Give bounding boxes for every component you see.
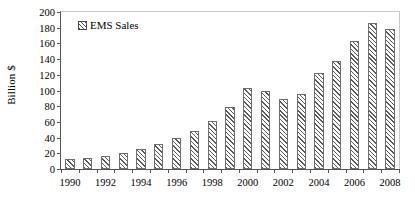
x-axis-tick [221, 169, 222, 173]
y-axis-tick [57, 12, 61, 13]
bar [154, 144, 163, 169]
y-axis-tick [57, 75, 61, 76]
x-axis-tick-label: 1990 [59, 177, 80, 188]
chart-legend: EMS Sales [78, 19, 139, 31]
y-axis-tick [57, 91, 61, 92]
bar [136, 149, 145, 169]
y-axis-tick [57, 122, 61, 123]
y-axis-tick-label: 100 [39, 85, 55, 96]
x-axis-tick [257, 169, 258, 173]
x-axis-tick-label: 2000 [237, 177, 258, 188]
x-axis-tick [203, 169, 204, 173]
bar [243, 88, 252, 169]
x-axis-tick [292, 169, 293, 173]
x-axis-tick [310, 169, 311, 173]
y-axis-tick-label: 120 [39, 69, 55, 80]
y-axis-tick-label: 80 [45, 101, 56, 112]
x-axis-tick-label: 1992 [95, 177, 116, 188]
bar [225, 107, 234, 169]
bar [332, 61, 341, 169]
x-axis-tick [61, 169, 62, 173]
x-axis-tick-label: 1996 [166, 177, 187, 188]
y-axis-title: Billion $ [5, 45, 17, 125]
bar [101, 156, 110, 169]
bar [208, 121, 217, 169]
legend-label-ems-sales: EMS Sales [90, 19, 139, 31]
y-axis-tick-label: 160 [39, 38, 55, 49]
y-axis-tick [57, 59, 61, 60]
x-axis-tick [346, 169, 347, 173]
y-axis-tick-label: 60 [45, 116, 56, 127]
bar [385, 29, 394, 169]
bar [190, 131, 199, 169]
x-axis-tick [79, 169, 80, 173]
legend-swatch-icon [78, 21, 87, 30]
y-axis-tick-label: 200 [39, 7, 55, 18]
x-axis-tick-label: 2008 [380, 177, 401, 188]
x-axis-tick [363, 169, 364, 173]
x-axis-tick-label: 1998 [202, 177, 223, 188]
y-axis-tick [57, 138, 61, 139]
ems-sales-bar-chart: Billion $ 020406080100120140160180200199… [0, 0, 415, 205]
y-axis-tick-label: 40 [45, 132, 56, 143]
x-axis-tick [274, 169, 275, 173]
x-axis-tick-label: 2002 [273, 177, 294, 188]
x-axis-tick [399, 169, 400, 173]
bar [172, 138, 181, 169]
x-axis-tick [168, 169, 169, 173]
y-axis-tick-label: 140 [39, 54, 55, 65]
x-axis-tick-label: 2004 [308, 177, 329, 188]
x-axis-tick [132, 169, 133, 173]
y-axis-tick-label: 0 [50, 164, 55, 175]
x-axis-tick [97, 169, 98, 173]
x-axis-tick [114, 169, 115, 173]
y-axis-tick [57, 153, 61, 154]
bar [368, 23, 377, 169]
bar [65, 159, 74, 169]
x-axis-tick-label: 2006 [344, 177, 365, 188]
y-axis-tick [57, 106, 61, 107]
y-axis-tick-label: 180 [39, 22, 55, 33]
x-axis-tick [328, 169, 329, 173]
y-axis-tick-label: 20 [45, 148, 56, 159]
y-axis-tick [57, 43, 61, 44]
bar [119, 153, 128, 169]
bar [279, 99, 288, 169]
x-axis-tick [150, 169, 151, 173]
x-axis-tick [186, 169, 187, 173]
bar [83, 158, 92, 169]
x-axis-tick [381, 169, 382, 173]
bar [350, 41, 359, 169]
bar [297, 94, 306, 169]
x-axis-tick-label: 1994 [131, 177, 152, 188]
y-axis-tick [57, 28, 61, 29]
plot-area: 0204060801001201401601802001990199219941… [60, 11, 400, 170]
x-axis-tick [239, 169, 240, 173]
bar [314, 73, 323, 169]
bar [261, 91, 270, 170]
